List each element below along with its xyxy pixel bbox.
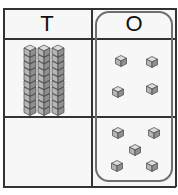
ones-cube [147,161,158,172]
ones-cube [147,57,158,68]
ones-cube [149,128,160,139]
base-ten-blocks [0,0,178,195]
ones-cube [112,161,123,172]
tens-rod [24,45,36,116]
tens-rod [52,45,64,116]
tens-rod [38,45,50,116]
ones-cube [130,145,141,156]
ones-cube [116,56,127,67]
ones-cube [113,128,124,139]
ones-cube [147,84,158,95]
ones-cube [113,87,124,98]
